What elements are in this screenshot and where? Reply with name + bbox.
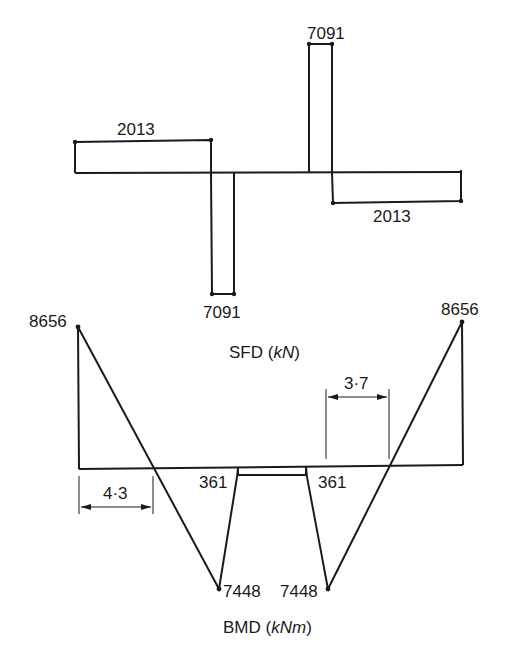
bmd-label-right-peak: 8656 [441,300,479,319]
bmd-point [326,587,331,592]
sfd-label-mid-top: 7091 [307,24,345,43]
sfd-right-block [332,170,461,203]
bmd-point [217,587,222,592]
bmd-right-edge [462,322,463,465]
dimension-left-label: 4·3 [103,484,128,503]
sfd-point [210,292,214,296]
sfd-point [209,138,213,142]
bmd-baseline [79,465,463,469]
sfd-title: SFD (kN) [229,343,300,362]
shear-force-diagram: 2013 7091 7091 2013 SFD (kN) [73,24,463,362]
dimension-right-label: 3·7 [344,374,369,393]
sfd-point [459,199,463,203]
sfd-label-right-bottom: 2013 [373,207,411,226]
sfd-down-bar [211,173,234,294]
sfd-point [331,201,335,205]
bmd-mid-segment [237,467,307,477]
bmd-title: BMD (kNm) [223,618,312,637]
dimension-right: 3·7 [326,374,389,459]
bmd-left-edge [78,327,79,469]
sfd-point [232,292,236,296]
bmd-right-drop [307,477,328,589]
bmd-left-rise [219,477,237,589]
bmd-label-right-small: 361 [318,473,346,492]
force-diagrams: 2013 7091 7091 2013 SFD (kN) 4 [0,0,513,668]
sfd-point [73,140,77,144]
bmd-label-left-min: 7448 [223,582,261,601]
bmd-point [460,320,465,325]
sfd-up-bar [309,44,332,172]
sfd-label-mid-bottom: 7091 [203,303,241,322]
dimension-left: 4·3 [79,476,153,514]
sfd-left-block [75,140,211,173]
sfd-baseline [75,172,461,173]
bmd-label-left-peak: 8656 [29,312,67,331]
bmd-point [76,325,81,330]
bmd-label-left-small: 361 [199,473,227,492]
bmd-left-diagonal [78,327,219,589]
bmd-label-right-min: 7448 [280,582,318,601]
bmd-right-diagonal [328,322,462,589]
sfd-label-left-top: 2013 [117,120,155,139]
